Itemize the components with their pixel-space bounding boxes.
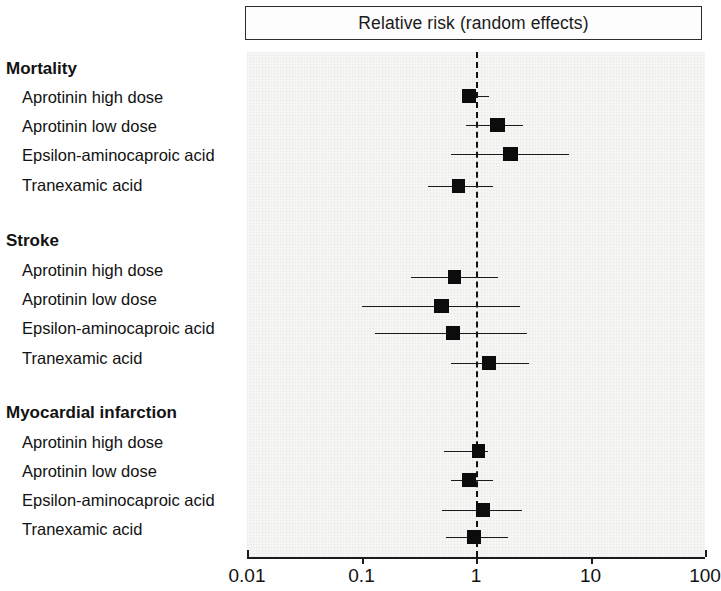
- row-label: Tranexamic acid: [22, 521, 142, 538]
- page-title: Relative risk (random effects): [358, 13, 588, 34]
- row-label: Tranexamic acid: [22, 177, 142, 194]
- axis-tick-mark: [705, 550, 707, 557]
- point-estimate-marker: [452, 179, 465, 192]
- axis-tick-label: 10: [580, 565, 601, 587]
- axis-tick-mark: [247, 550, 249, 557]
- forest-plot-figure: Relative risk (random effects) Mortality…: [0, 0, 721, 591]
- point-estimate-marker: [462, 473, 477, 488]
- axis-tick-label: 100: [689, 565, 721, 587]
- point-estimate-marker: [490, 118, 505, 133]
- axis-tick-label: 1: [471, 565, 482, 587]
- point-estimate-marker: [448, 270, 461, 283]
- axis-tick-mark: [362, 557, 364, 564]
- group-heading: Mortality: [6, 60, 77, 77]
- point-estimate-marker: [446, 326, 461, 341]
- row-label: Aprotinin low dose: [22, 463, 157, 480]
- row-label: Epsilon-aminocaproic acid: [22, 147, 215, 164]
- point-estimate-marker: [476, 503, 491, 518]
- row-label: Aprotinin low dose: [22, 291, 157, 308]
- axis-tick-label: 0.1: [348, 565, 374, 587]
- row-label: Epsilon-aminocaproic acid: [22, 492, 215, 509]
- point-estimate-marker: [434, 299, 449, 314]
- row-label: Aprotinin high dose: [22, 262, 163, 279]
- group-heading: Myocardial infarction: [6, 404, 177, 421]
- row-label: Aprotinin low dose: [22, 118, 157, 135]
- row-label: Aprotinin high dose: [22, 434, 163, 451]
- axis-tick-mark: [591, 557, 593, 564]
- row-label: Epsilon-aminocaproic acid: [22, 320, 215, 337]
- axis-tick-label: 0.01: [229, 565, 266, 587]
- chart-title-box: Relative risk (random effects): [245, 6, 702, 40]
- point-estimate-marker: [467, 530, 480, 543]
- point-estimate-marker: [482, 356, 497, 371]
- axis-tick-mark: [476, 557, 478, 564]
- point-estimate-marker: [472, 444, 485, 457]
- point-estimate-marker: [462, 89, 477, 104]
- row-label: Tranexamic acid: [22, 350, 142, 367]
- point-estimate-marker: [503, 147, 518, 162]
- row-label: Aprotinin high dose: [22, 89, 163, 106]
- group-heading: Stroke: [6, 232, 59, 249]
